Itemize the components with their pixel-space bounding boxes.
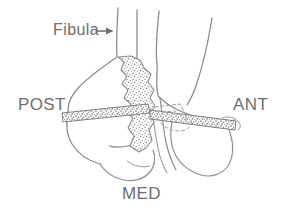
tibia-shaft (156, 11, 212, 110)
label-posterior: POST (18, 96, 66, 113)
fibula-shaft (117, 8, 137, 60)
anatomical-figure: Fibula POST ANT MED (0, 0, 287, 213)
label-fibula: Fibula (53, 22, 99, 38)
label-medial: MED (122, 185, 161, 202)
label-anterior: ANT (233, 96, 268, 113)
anterior-tubercle (158, 96, 240, 176)
